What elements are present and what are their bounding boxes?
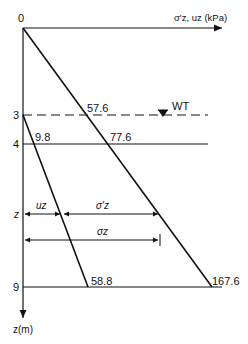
pore-pressure-line <box>23 115 88 287</box>
value-57-6: 57.6 <box>87 102 108 114</box>
depth-label-z: z <box>13 209 19 220</box>
depth-label-4: 4 <box>13 138 19 150</box>
total-stress-line <box>23 28 212 287</box>
stress-diagram: 0 σ'z, uz (kPa) z(m) 3 4 z 9 WT 57.6 77.… <box>0 0 248 344</box>
depth-label-9: 9 <box>13 281 19 293</box>
value-167-6: 167.6 <box>212 275 240 287</box>
depth-label-3: 3 <box>13 109 19 121</box>
value-58-8: 58.8 <box>91 275 112 287</box>
x-axis-label: σ'z, uz (kPa) <box>174 12 227 23</box>
value-77-6: 77.6 <box>110 131 131 143</box>
effective-stress-label: σ'z <box>96 200 109 211</box>
uz-label: uz <box>36 200 47 211</box>
total-stress-label: σz <box>97 226 108 237</box>
y-axis-label: z(m) <box>13 324 33 335</box>
wt-label: WT <box>172 100 189 112</box>
value-9-8: 9.8 <box>35 131 50 143</box>
origin-label: 0 <box>18 12 24 24</box>
water-table-icon <box>158 110 168 117</box>
